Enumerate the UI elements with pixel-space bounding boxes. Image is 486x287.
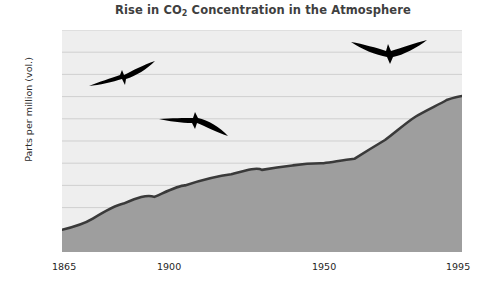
bird-silhouette-right: [349, 34, 429, 66]
x-tick-1995: 1995: [446, 262, 470, 272]
y-axis-label: Parts per million (vol.): [23, 30, 34, 190]
title-text-rest: Concentration in the Atmosphere: [188, 3, 411, 17]
title-subscript: 2: [182, 9, 188, 18]
co2-area-chart: Rise in CO2 Concentration in the Atmosph…: [0, 0, 486, 287]
x-tick-1900: 1900: [157, 262, 181, 272]
bird-silhouette-center: [158, 107, 230, 139]
area-fill: [62, 96, 462, 252]
page-title: Rise in CO2 Concentration in the Atmosph…: [0, 3, 486, 17]
title-text-main: Rise in CO: [115, 3, 182, 17]
bird-silhouette-left: [87, 60, 157, 94]
plot-area: [62, 30, 462, 252]
x-tick-1950: 1950: [312, 262, 336, 272]
x-tick-1865: 1865: [52, 262, 76, 272]
